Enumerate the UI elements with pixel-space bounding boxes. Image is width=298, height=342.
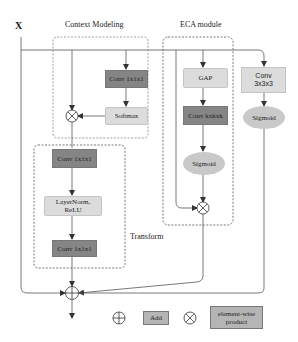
gap-box: GAP [183, 68, 228, 88]
eca-product-node [197, 202, 209, 214]
transform-conv-top-box: Conv 1x1x1 [52, 149, 97, 168]
conv3x3x3-box: Conv 3x3x3 [241, 67, 286, 93]
transform-title: Transform [130, 232, 163, 241]
legend-product-icon [184, 312, 196, 324]
eca-conv-label: Conv kxkxk [188, 112, 222, 120]
cm-conv-box: Conv 1x1x1 [105, 70, 148, 88]
transform-conv-top-label: Conv 1x1x1 [57, 155, 91, 163]
legend-add-box: Add [143, 311, 169, 325]
eca-module-title: ECA module [180, 20, 222, 29]
layernorm-relu-box: LayerNorm, ReLU [44, 196, 102, 216]
eca-container [163, 37, 233, 225]
eca-sigmoid-ellipse: Sigmoid [183, 152, 225, 175]
side-sigmoid-ellipse: Sigmoid [243, 106, 285, 129]
top-trunk-line [21, 50, 264, 66]
gap-label: GAP [198, 74, 212, 82]
input-x-label: X [15, 20, 22, 31]
legend-add-label: Add [150, 314, 162, 322]
eca-sigmoid-label: Sigmoid [192, 160, 216, 168]
conv3-line1: Conv [255, 72, 271, 80]
cm-conv-label: Conv 1x1x1 [109, 75, 143, 83]
softmax-label: Softmax [115, 112, 139, 120]
eca-conv-box: Conv kxkxk [183, 106, 228, 125]
softmax-box: Softmax [105, 107, 148, 125]
transform-conv-bottom-label: Conv 1x1x1 [57, 245, 91, 253]
eca-to-add-line [79, 214, 203, 293]
side-sigmoid-label: Sigmoid [252, 114, 276, 122]
add-node [66, 287, 79, 300]
relu-label: ReLU [64, 206, 81, 214]
cm-product-node [66, 110, 78, 122]
legend-product-line1: element-wise [218, 310, 255, 318]
layernorm-label: LayerNorm, [56, 198, 90, 206]
transform-conv-bottom-box: Conv 1x1x1 [52, 240, 97, 257]
legend-product-box: element-wise product [210, 306, 263, 329]
legend-add-icon [113, 312, 125, 324]
conv3-line2: 3x3x3 [254, 80, 273, 88]
legend-product-line2: product [226, 318, 247, 326]
diagram-canvas [0, 0, 298, 342]
context-modeling-title: Context Modeling [65, 20, 123, 29]
